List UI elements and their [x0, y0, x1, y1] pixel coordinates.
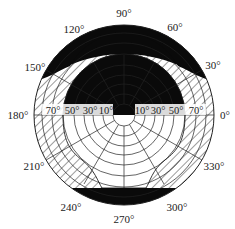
azimuth-label-180: 180° — [8, 109, 29, 121]
zenith-label-right-50: 50° — [169, 105, 184, 116]
azimuth-label-300: 300° — [167, 201, 188, 213]
azimuth-label-30: 30° — [205, 59, 220, 71]
azimuth-label-0: 0° — [220, 109, 230, 121]
azimuth-label-120: 120° — [64, 23, 85, 35]
zenith-label-left-10: 10° — [99, 105, 114, 116]
azimuth-label-150: 150° — [25, 61, 46, 73]
zenith-label-right-70: 70° — [189, 105, 204, 116]
zenith-label-left-30: 30° — [83, 105, 98, 116]
azimuth-label-60: 60° — [167, 21, 182, 33]
zenith-label-left-70: 70° — [46, 105, 61, 116]
azimuth-label-270: 270° — [114, 213, 135, 225]
polar-sky-diagram: 90° 60° 120° 30° 150° 0° 180° 330° 210° … — [0, 0, 235, 229]
azimuth-label-210: 210° — [24, 160, 45, 172]
zenith-label-right-10: 10° — [135, 105, 150, 116]
azimuth-label-240: 240° — [61, 201, 82, 213]
azimuth-label-330: 330° — [204, 160, 225, 172]
azimuth-label-90: 90° — [116, 7, 131, 19]
zenith-label-right-30: 30° — [151, 105, 166, 116]
zenith-label-left-50: 50° — [65, 105, 80, 116]
